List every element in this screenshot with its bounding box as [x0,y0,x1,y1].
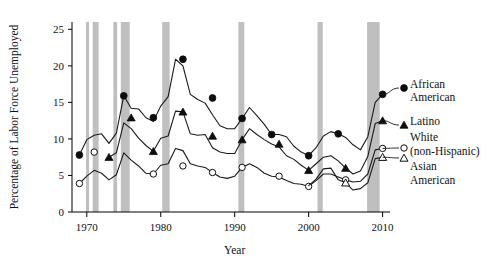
recession-band-2 [93,22,99,212]
marker-2-0 [76,180,82,186]
marker-1-0 [105,153,113,160]
marker-0-7 [305,152,312,159]
recession-band-4 [121,22,130,212]
legend-label-filled-circle-1: American [410,91,456,103]
legend-label-open-triangle-1: American [410,174,456,186]
y-axis-title: Percentage of Labor Force Unemployed [8,24,21,209]
x-tick-label-1970: 1970 [76,221,99,233]
marker-0-6 [268,131,275,138]
recession-band-5 [162,22,169,212]
legend-label-open-circle-1: (non-Hispanic) [410,145,480,158]
marker-0-4 [209,95,216,102]
marker-2-4 [209,169,215,175]
chart-canvas: 051015202519701980199020002010YearPercen… [0,0,486,277]
marker-0-5 [239,115,246,122]
recession-band-3 [113,22,117,212]
x-tick-label-1980: 1980 [150,221,173,233]
x-axis-title: Year [224,244,245,256]
y-tick-label-5: 5 [59,169,65,181]
legend-label-open-triangle-0: Asian [410,160,437,172]
marker-2-1 [91,149,97,155]
x-tick-label-1990: 1990 [224,221,247,233]
y-tick-label-25: 25 [53,23,65,35]
recession-band-7 [318,22,323,212]
marker-2-2 [150,171,156,177]
marker-0-2 [150,114,157,121]
legend-label-open-circle-0: White [410,131,438,143]
legend-marker-3 [400,154,408,161]
marker-0-3 [180,56,187,63]
x-tick-label-2000: 2000 [298,221,321,233]
marker-2-5 [239,164,245,170]
chart-figure: 051015202519701980199020002010YearPercen… [0,0,486,277]
legend-marker-2 [401,145,407,151]
marker-0-1 [120,92,127,99]
x-tick-label-2010: 2010 [372,221,395,233]
marker-1-4 [209,132,217,139]
marker-2-3 [180,163,186,169]
y-tick-label-10: 10 [53,133,65,145]
marker-2-6 [276,173,282,179]
legend-marker-1 [400,121,408,128]
legend-label-filled-triangle-0: Latino [410,115,440,127]
legend-label-filled-circle-0: African [410,78,445,90]
marker-1-6 [275,140,283,147]
recession-band-8 [367,22,380,212]
legend-marker-0 [401,85,408,92]
recession-band-1 [86,22,89,212]
marker-0-0 [76,152,83,159]
y-tick-label-20: 20 [53,60,65,72]
marker-0-8 [335,130,342,137]
y-tick-label-15: 15 [53,96,65,108]
y-tick-label-0: 0 [59,206,65,218]
